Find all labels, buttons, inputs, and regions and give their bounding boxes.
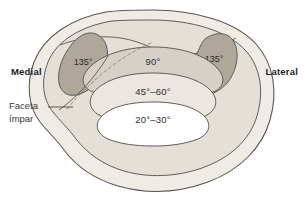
patella-facet-diagram: 135° 135° 90° 45°–60° 20°–30° [0,0,306,206]
zone-45-60-label: 45°–60° [135,86,170,97]
medial-side-label: Medial [11,66,42,77]
zone-20-30-label: 20°–30° [135,114,170,125]
medial-facet-angle-label: 135° [74,57,93,67]
lateral-side-label: Lateral [265,66,298,77]
faceta-impar-line1: Faceta [9,100,38,111]
zone-90-label: 90° [146,56,161,67]
faceta-impar-callout: Faceta ímpar [9,100,38,125]
figure-root: 135° 135° 90° 45°–60° 20°–30° Medial [0,0,306,206]
band-20-30-group: 20°–30° [97,102,209,146]
faceta-impar-line2: ímpar [9,113,38,126]
